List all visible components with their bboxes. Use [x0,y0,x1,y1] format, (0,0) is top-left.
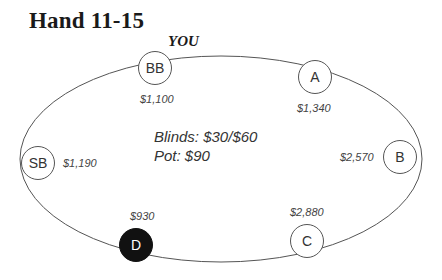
stack-sb: $1,190 [63,157,97,169]
seat-bb: BB [138,51,172,85]
seat-label: BB [146,60,165,76]
stack-b: $2,570 [340,151,374,163]
blinds-text: Blinds: $30/$60 [154,127,257,146]
seat-label: C [302,233,312,249]
stack-d: $930 [130,210,154,222]
seat-b: B [383,140,417,174]
seat-d-dealer: D [119,228,153,262]
table-info: Blinds: $30/$60 Pot: $90 [154,127,257,165]
seat-label: SB [29,155,48,171]
stack-bb: $1,100 [140,93,174,105]
seat-c: C [290,224,324,258]
seat-sb: SB [21,146,55,180]
seat-label: B [395,149,404,165]
seat-a: A [298,60,332,94]
pot-text: Pot: $90 [154,146,257,165]
stack-a: $1,340 [297,102,331,114]
seat-label: D [131,237,141,253]
seat-label: A [310,69,319,85]
stack-c: $2,880 [290,206,324,218]
